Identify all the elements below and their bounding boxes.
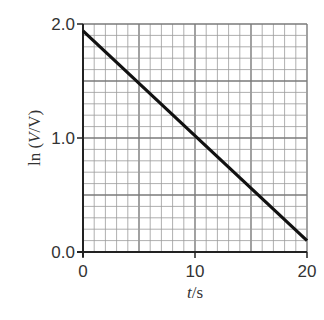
x-axis-label: t/s bbox=[187, 283, 203, 302]
grid bbox=[83, 24, 307, 252]
x-tick-label: 0 bbox=[78, 262, 87, 281]
x-tick-label: 10 bbox=[186, 262, 205, 281]
y-tick-label: 2.0 bbox=[51, 15, 75, 34]
y-tick-label: 1.0 bbox=[51, 129, 75, 148]
y-axis-label: ln (V/V) bbox=[25, 110, 44, 166]
y-tick-label: 0.0 bbox=[51, 243, 75, 262]
line-chart: 0.01.02.001020 t/s ln (V/V) bbox=[0, 0, 324, 320]
x-tick-label: 20 bbox=[298, 262, 317, 281]
